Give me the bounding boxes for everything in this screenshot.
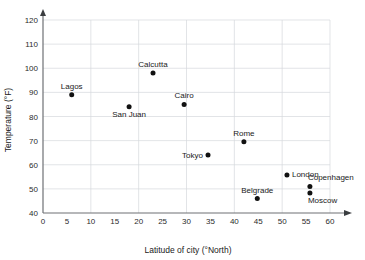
data-point-labels-group: LagosSan JuanCalcuttaCairoTokyoRomeBelgr… bbox=[61, 60, 354, 205]
y-tick-label: 90 bbox=[29, 88, 38, 97]
data-point-label: Cairo bbox=[175, 91, 195, 100]
x-tick-label: 30 bbox=[182, 217, 191, 226]
data-point bbox=[69, 92, 74, 97]
y-tick-label: 80 bbox=[29, 113, 38, 122]
y-axis-tick-labels: 405060708090100110120 bbox=[25, 16, 39, 218]
x-tick-label: 45 bbox=[254, 217, 263, 226]
data-point-label: Belgrade bbox=[241, 186, 274, 195]
data-point bbox=[255, 196, 260, 201]
x-axis-arrowhead bbox=[344, 210, 352, 216]
x-tick-label: 5 bbox=[65, 217, 70, 226]
data-point-label: Tokyo bbox=[182, 151, 203, 160]
x-tick-label: 25 bbox=[158, 217, 167, 226]
x-axis-title: Latitude of city (°North) bbox=[144, 245, 231, 255]
y-tick-label: 60 bbox=[29, 161, 38, 170]
x-tick-label: 40 bbox=[230, 217, 239, 226]
y-tick-label: 100 bbox=[25, 64, 39, 73]
data-point bbox=[182, 102, 187, 107]
y-axis-arrowhead bbox=[40, 9, 46, 16]
data-point-label: Calcutta bbox=[138, 60, 168, 69]
x-tick-label: 15 bbox=[110, 217, 119, 226]
y-tick-label: 50 bbox=[29, 185, 38, 194]
data-point bbox=[307, 184, 312, 189]
data-point-label: Copenhagen bbox=[308, 173, 354, 182]
data-points-group bbox=[69, 71, 312, 201]
data-point bbox=[127, 104, 132, 109]
data-point-label: San Juan bbox=[112, 110, 146, 119]
data-point bbox=[206, 153, 211, 158]
y-tick-label: 40 bbox=[29, 209, 38, 218]
data-point-label: Lagos bbox=[61, 82, 83, 91]
y-tick-label: 120 bbox=[25, 16, 39, 25]
x-tick-label: 10 bbox=[86, 217, 95, 226]
data-point bbox=[241, 139, 246, 144]
x-tick-label: 20 bbox=[134, 217, 143, 226]
plot-canvas: 405060708090100110120 051015202530354045… bbox=[0, 0, 365, 260]
y-tick-label: 70 bbox=[29, 137, 38, 146]
scatter-chart: 405060708090100110120 051015202530354045… bbox=[0, 0, 365, 260]
x-tick-label: 0 bbox=[41, 217, 46, 226]
y-axis-title: Temperature (°F) bbox=[3, 88, 13, 153]
x-tick-label: 60 bbox=[326, 217, 335, 226]
data-point-label: Moscow bbox=[308, 196, 338, 205]
x-tick-label: 50 bbox=[278, 217, 287, 226]
data-point bbox=[151, 71, 156, 76]
x-tick-label: 35 bbox=[206, 217, 215, 226]
x-axis-tick-labels: 051015202530354045505560 bbox=[41, 217, 335, 226]
y-tick-label: 110 bbox=[25, 40, 38, 49]
x-tick-label: 55 bbox=[302, 217, 311, 226]
axis-lines bbox=[40, 9, 352, 216]
data-point bbox=[284, 172, 289, 177]
data-point-label: Rome bbox=[233, 129, 255, 138]
data-point bbox=[307, 190, 312, 195]
